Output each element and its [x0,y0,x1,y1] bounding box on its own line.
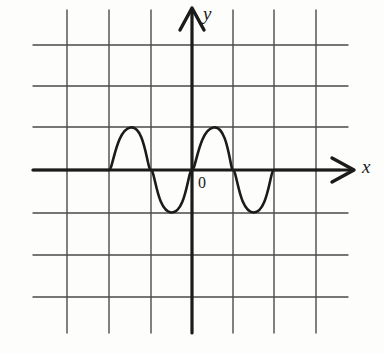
origin-label: 0 [198,175,206,191]
math-figure: y x 0 [0,0,384,354]
x-axis-label: x [362,157,370,176]
y-axis-label: y [203,4,211,23]
graph-canvas [0,0,384,354]
